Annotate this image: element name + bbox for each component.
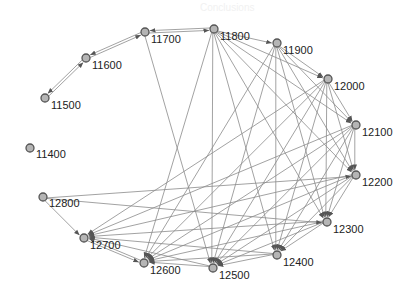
node-circle[interactable]: [141, 28, 149, 36]
edge-12200-12500: [217, 176, 353, 264]
node-label: 11700: [151, 33, 181, 45]
node-label: 12500: [219, 269, 250, 281]
edge-11600-11500: [48, 60, 83, 94]
node-11500[interactable]: 11500: [41, 94, 81, 111]
edge-12000-12500: [215, 82, 325, 263]
edge-11600-11700: [90, 35, 141, 57]
node-label: 12800: [49, 197, 80, 209]
node-circle[interactable]: [140, 259, 148, 267]
node-12400[interactable]: 12400: [273, 251, 314, 268]
node-circle[interactable]: [273, 251, 281, 259]
edge-12400-12500: [218, 255, 273, 266]
node-11600[interactable]: 11600: [82, 54, 122, 71]
node-circle[interactable]: [273, 39, 281, 47]
node-circle[interactable]: [82, 54, 90, 62]
edge-12000-12200: [328, 83, 353, 170]
edge-11900-12200: [278, 47, 352, 171]
node-12700[interactable]: 12700: [80, 234, 121, 251]
node-label: 12400: [283, 256, 314, 268]
edge-11800-11700: [150, 28, 210, 31]
edge-12100-12700: [88, 125, 352, 235]
edge-12200-12600: [148, 175, 352, 260]
node-label: 12300: [333, 223, 364, 235]
node-label: 12000: [334, 80, 365, 92]
node-12300[interactable]: 12300: [323, 218, 364, 235]
node-circle[interactable]: [323, 218, 331, 226]
edge-11800-12300: [215, 33, 323, 218]
node-12500[interactable]: 12500: [209, 264, 250, 281]
edge-12100-12600: [148, 126, 353, 259]
edge-12100-12500: [216, 127, 353, 264]
edge-11700-11600: [90, 33, 141, 55]
node-circle[interactable]: [41, 94, 49, 102]
node-label: 11400: [36, 148, 66, 160]
node-12100[interactable]: 12100: [352, 121, 393, 138]
edge-11900-12500: [213, 47, 275, 263]
node-label: 11800: [220, 30, 250, 42]
node-circle[interactable]: [352, 171, 360, 179]
node-circle[interactable]: [80, 234, 88, 242]
edge-12400-12600: [149, 254, 273, 262]
node-label: 12200: [362, 176, 393, 188]
node-circle[interactable]: [39, 193, 47, 201]
edge-11900-12600: [146, 46, 274, 258]
node-circle[interactable]: [26, 144, 34, 152]
node-circle[interactable]: [352, 121, 360, 129]
edge-12800-12300: [47, 199, 322, 223]
node-12200[interactable]: 12200: [352, 171, 393, 188]
network-graph: 1140011500116001170011800119001200012100…: [0, 0, 409, 300]
node-label: 11500: [51, 99, 81, 111]
node-label: 11600: [92, 59, 122, 71]
node-circle[interactable]: [210, 25, 218, 33]
node-label: 12100: [362, 126, 393, 138]
edge-12000-12400: [277, 83, 326, 250]
node-label: 12700: [90, 239, 121, 251]
edge-12000-12300: [326, 83, 327, 217]
node-12800[interactable]: 12800: [39, 193, 80, 209]
node-label: 11900: [283, 44, 313, 56]
node-label: 12600: [150, 264, 181, 276]
node-circle[interactable]: [209, 264, 217, 272]
node-12600[interactable]: 12600: [140, 259, 181, 276]
edge-12100-12300: [327, 129, 353, 217]
node-circle[interactable]: [324, 75, 332, 83]
node-11400[interactable]: 11400: [26, 144, 66, 160]
edge-11500-11600: [49, 62, 84, 96]
